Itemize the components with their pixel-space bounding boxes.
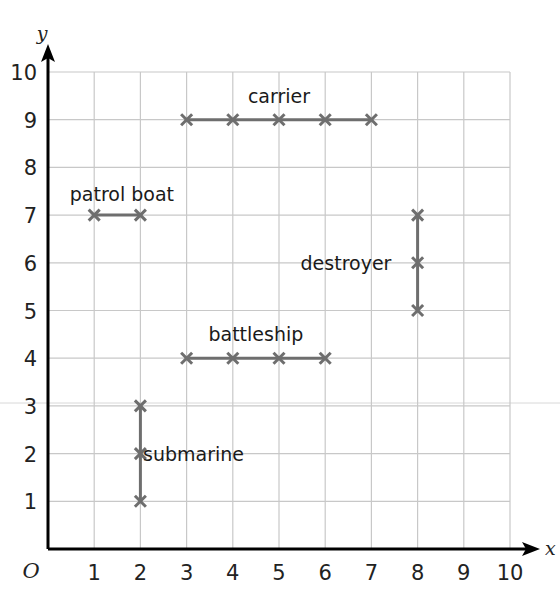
ship-label: carrier: [248, 85, 310, 107]
x-tick-label: 4: [226, 561, 239, 585]
ship-labels: carrierpatrol boatdestroyerbattleshipsub…: [70, 85, 392, 465]
x-tick-label: 8: [411, 561, 424, 585]
y-tick-label: 8: [24, 156, 37, 180]
y-tick-label: 1: [24, 490, 37, 514]
y-tick-label: 4: [24, 347, 37, 371]
y-tick-label: 3: [24, 395, 37, 419]
ship-label: patrol boat: [70, 183, 174, 205]
ship-label: destroyer: [301, 252, 392, 274]
x-tick-label: 10: [497, 561, 524, 585]
y-tick-label: 9: [24, 109, 37, 133]
x-tick-label: 6: [319, 561, 332, 585]
y-tick-label: 6: [24, 252, 37, 276]
ship-label: submarine: [143, 443, 244, 465]
x-tick-label: 3: [180, 561, 193, 585]
y-tick-label: 2: [24, 443, 37, 467]
origin-label: O: [22, 559, 39, 583]
y-tick-label: 10: [10, 61, 37, 85]
y-tick-label: 7: [24, 204, 37, 228]
x-tick-label: 5: [272, 561, 285, 585]
grid-lines: [48, 72, 510, 549]
battleship-grid-chart: x y O 1234567891012345678910 carrierpatr…: [0, 0, 560, 596]
x-axis-label: x: [545, 537, 556, 559]
ship-label: battleship: [208, 323, 303, 345]
y-axis-label: y: [36, 22, 48, 44]
y-tick-label: 5: [24, 300, 37, 324]
x-tick-label: 7: [365, 561, 378, 585]
ship-battleship: [181, 353, 331, 364]
x-tick-label: 1: [88, 561, 101, 585]
x-tick-label: 9: [457, 561, 470, 585]
ship-patrol-boat: [89, 210, 146, 221]
x-tick-label: 2: [134, 561, 147, 585]
